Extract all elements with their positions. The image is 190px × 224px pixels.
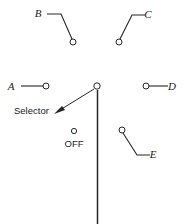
terminal-e-wire bbox=[123, 133, 150, 155]
off-position-label: OFF bbox=[65, 138, 84, 149]
off-position-node[interactable] bbox=[71, 128, 76, 133]
selector-callout-arrowhead-icon bbox=[54, 106, 65, 114]
diagram-canvas: B C A D E OFF Selector bbox=[0, 0, 190, 224]
selector-callout-leader bbox=[60, 89, 94, 110]
terminal-c-node[interactable] bbox=[116, 39, 122, 45]
selector-switch-diagram: B C A D E OFF Selector bbox=[0, 0, 190, 224]
terminal-c-wire bbox=[120, 15, 145, 39]
terminal-a-label: A bbox=[7, 80, 15, 92]
terminal-e-label: E bbox=[149, 148, 157, 160]
terminal-b-wire bbox=[47, 14, 72, 39]
selector-callout-label: Selector bbox=[14, 105, 49, 116]
selector-pivot-node[interactable] bbox=[94, 83, 100, 89]
terminal-c-label: C bbox=[144, 8, 152, 20]
terminal-b-label: B bbox=[35, 7, 42, 19]
terminal-d-node[interactable] bbox=[143, 83, 149, 89]
terminal-b-node[interactable] bbox=[70, 39, 76, 45]
terminal-e-node[interactable] bbox=[119, 127, 125, 133]
terminal-d-label: D bbox=[167, 80, 176, 92]
terminal-a-node[interactable] bbox=[43, 83, 49, 89]
